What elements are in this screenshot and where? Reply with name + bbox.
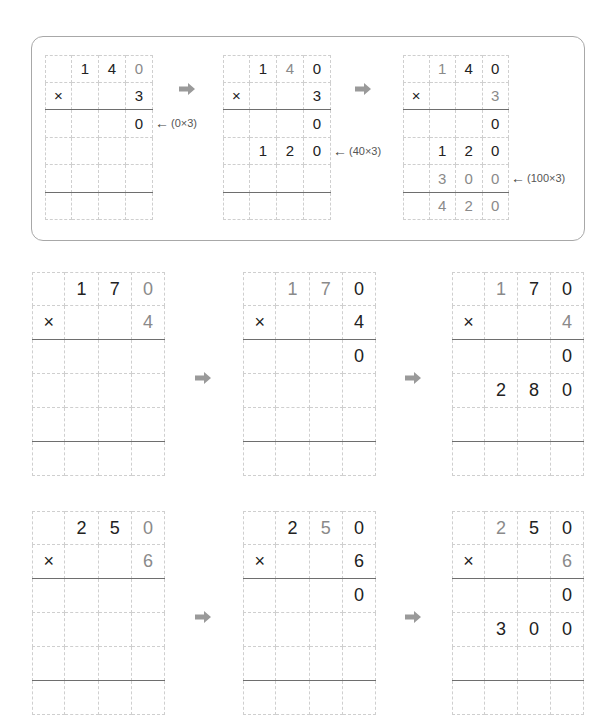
- digit-cell: [485, 545, 518, 579]
- example-box-grid-1: 140×30: [45, 55, 153, 220]
- digit-cell: [551, 408, 584, 442]
- digit-cell: [99, 340, 132, 374]
- problem-1-grid-2: 170×40: [243, 272, 376, 476]
- digit-cell: [485, 306, 518, 340]
- digit-cell: 1: [430, 138, 457, 166]
- digit-cell: [99, 138, 126, 166]
- digit-cell: [132, 613, 165, 647]
- digit-cell: [452, 613, 485, 647]
- digit-cell: [65, 306, 98, 340]
- digit-cell: [518, 681, 551, 715]
- digit-cell: [343, 374, 376, 408]
- digit-cell: 0: [518, 613, 551, 647]
- digit-cell: 3: [430, 165, 457, 193]
- digit-cell: 0: [304, 55, 331, 83]
- digit-cell: [403, 55, 430, 83]
- digit-cell: [485, 340, 518, 374]
- digit-cell: [310, 408, 343, 442]
- digit-cell: 0: [343, 272, 376, 306]
- multiply-sign: ×: [243, 545, 276, 579]
- digit-cell: 6: [343, 545, 376, 579]
- digit-cell: [518, 442, 551, 476]
- digit-cell: 0: [126, 55, 153, 83]
- digit-cell: [243, 442, 276, 476]
- sum-line: [32, 441, 165, 442]
- digit-cell: [485, 408, 518, 442]
- digit-cell: [403, 193, 430, 221]
- sum-line: [403, 192, 509, 193]
- digit-cell: [32, 613, 65, 647]
- multiply-sign: ×: [32, 545, 65, 579]
- digit-cell: [243, 272, 276, 306]
- note-text: (40×3): [349, 145, 381, 157]
- digit-cell: 1: [250, 55, 277, 83]
- digit-cell: 0: [456, 165, 483, 193]
- digit-cell: [452, 408, 485, 442]
- digit-cell: [310, 681, 343, 715]
- sum-line: [32, 578, 165, 579]
- digit-cell: 2: [65, 511, 98, 545]
- digit-cell: 0: [551, 511, 584, 545]
- digit-cell: [403, 110, 430, 138]
- digit-cell: [65, 681, 98, 715]
- multiply-sign: ×: [452, 545, 485, 579]
- right-arrow-icon: [195, 370, 211, 382]
- digit-cell: [132, 340, 165, 374]
- digit-cell: 0: [343, 579, 376, 613]
- digit-cell: 4: [456, 55, 483, 83]
- digit-cell: [518, 647, 551, 681]
- digit-cell: [452, 579, 485, 613]
- digit-cell: [72, 193, 99, 221]
- digit-cell: [485, 647, 518, 681]
- multiply-sign: ×: [452, 306, 485, 340]
- digit-cell: [277, 110, 304, 138]
- sum-line: [452, 441, 584, 442]
- digit-cell: 0: [551, 613, 584, 647]
- digit-cell: [343, 408, 376, 442]
- digit-cell: [403, 165, 430, 193]
- digit-cell: 2: [485, 374, 518, 408]
- problem-1-grid-3: 170×40280: [452, 272, 584, 476]
- calculation-note: ←(100×3): [511, 170, 565, 186]
- digit-cell: [99, 545, 132, 579]
- example-box-grid-2: 140×30120: [223, 55, 331, 220]
- digit-cell: [452, 681, 485, 715]
- digit-cell: [276, 340, 309, 374]
- sum-line: [243, 441, 376, 442]
- digit-cell: 1: [276, 272, 309, 306]
- digit-cell: 0: [343, 340, 376, 374]
- digit-cell: 1: [65, 272, 98, 306]
- sum-line: [452, 578, 584, 579]
- digit-cell: [310, 374, 343, 408]
- digit-cell: [452, 272, 485, 306]
- digit-cell: [452, 511, 485, 545]
- digit-cell: [452, 340, 485, 374]
- digit-cell: [65, 442, 98, 476]
- digit-cell: [276, 408, 309, 442]
- digit-cell: [132, 408, 165, 442]
- digit-cell: 7: [99, 272, 132, 306]
- digit-cell: 0: [483, 55, 510, 83]
- digit-cell: [32, 579, 65, 613]
- digit-cell: [72, 165, 99, 193]
- multiply-sign: ×: [223, 83, 250, 111]
- sum-line: [45, 192, 153, 193]
- digit-cell: 4: [277, 55, 304, 83]
- digit-cell: [132, 442, 165, 476]
- digit-cell: [223, 138, 250, 166]
- note-text: (100×3): [527, 172, 565, 184]
- digit-cell: [132, 579, 165, 613]
- digit-cell: [65, 545, 98, 579]
- digit-cell: [243, 511, 276, 545]
- left-arrow-icon: ←: [155, 115, 169, 131]
- digit-cell: [243, 408, 276, 442]
- digit-cell: [65, 613, 98, 647]
- digit-cell: [223, 110, 250, 138]
- digit-cell: [99, 165, 126, 193]
- digit-cell: [32, 272, 65, 306]
- digit-cell: [430, 110, 457, 138]
- digit-cell: [32, 408, 65, 442]
- digit-cell: [343, 681, 376, 715]
- calculation-note: ←(40×3): [333, 143, 381, 159]
- digit-cell: [518, 408, 551, 442]
